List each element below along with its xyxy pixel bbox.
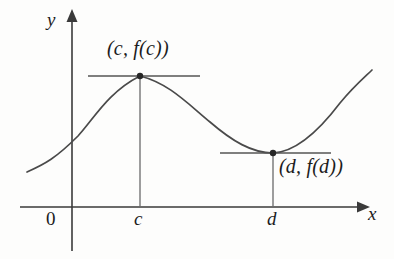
- local-min-point-dot: [270, 150, 276, 156]
- local-min-label: (d, f(d)): [279, 156, 343, 176]
- x-tick-label-d: d: [267, 209, 277, 228]
- local-max-label: (c, f(c)): [107, 38, 169, 58]
- y-axis-arrowhead: [67, 9, 78, 22]
- y-axis: [67, 9, 78, 251]
- x-tick-label-c: c: [134, 209, 142, 228]
- local-max-point-dot: [137, 73, 143, 79]
- origin-label: 0: [46, 209, 56, 228]
- figure-canvas: [0, 0, 394, 259]
- calculus-figure: (c, f(c)) (d, f(d)) y x 0 c d: [0, 0, 394, 259]
- y-axis-label: y: [47, 10, 55, 29]
- x-axis-label: x: [368, 204, 376, 223]
